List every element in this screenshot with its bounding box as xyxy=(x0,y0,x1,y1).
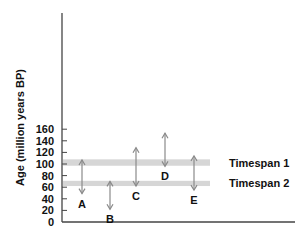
y-tick-label: 80 xyxy=(42,170,54,182)
range-arrow-b: B xyxy=(106,181,114,225)
timespan-label-2: Timespan 2 xyxy=(229,177,289,189)
y-tick-label: 20 xyxy=(42,204,54,216)
range-label-c: C xyxy=(132,190,140,202)
range-arrow-d: D xyxy=(161,133,169,182)
y-tick-label: 120 xyxy=(36,146,54,158)
timespan-label-1: Timespan 1 xyxy=(229,157,289,169)
y-tick-label: 160 xyxy=(36,123,54,135)
range-label-b: B xyxy=(106,213,114,225)
y-axis-label: Age (million years BP) xyxy=(14,69,26,186)
chart-plot: Timespan 1Timespan 202040608010012014016… xyxy=(0,0,307,238)
range-label-e: E xyxy=(190,194,197,206)
range-chart: Timespan 1Timespan 202040608010012014016… xyxy=(0,0,307,238)
y-tick-label: 140 xyxy=(36,135,54,147)
y-tick-label: 0 xyxy=(48,216,54,228)
y-tick-label: 100 xyxy=(36,158,54,170)
range-label-a: A xyxy=(78,198,86,210)
y-tick-label: 40 xyxy=(42,193,54,205)
range-arrow-c: C xyxy=(132,148,140,202)
y-tick-label: 60 xyxy=(42,181,54,193)
range-label-d: D xyxy=(161,170,169,182)
